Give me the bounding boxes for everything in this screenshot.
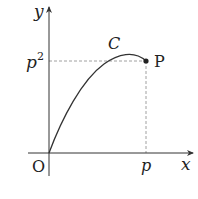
graph-diagram: y x O C P p p 2 [0,0,198,199]
curve-c [49,54,146,153]
point-label: P [154,52,165,71]
origin-label: O [32,157,45,176]
p-squared-label-base: p [26,52,37,72]
x-axis-label: x [181,154,191,174]
y-axis-label: y [33,1,44,21]
curve-label: C [108,34,120,53]
point-p [143,58,148,63]
p-x-tick-label: p [141,156,151,175]
p-squared-label-exponent: 2 [37,50,44,63]
